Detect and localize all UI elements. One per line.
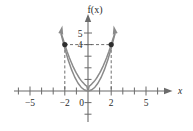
y-tick-label-5: 5 xyxy=(78,29,83,39)
curve-right-arrowhead-icon xyxy=(113,26,118,35)
x-tick-label-zero: 0 xyxy=(79,98,84,108)
y-tick-label-4: 4 xyxy=(78,40,83,50)
parabola-graph-svg: f(x) x −5 −2 0 2 5 4 5 xyxy=(0,0,193,131)
x-tick-label-minus2: −2 xyxy=(60,98,70,108)
x-tick-label-5: 5 xyxy=(144,98,149,108)
graph-figure: f(x) x −5 −2 0 2 5 4 5 xyxy=(0,0,193,131)
curve-left-arrowhead-icon xyxy=(58,26,63,35)
x-axis-arrowhead-icon xyxy=(164,88,173,94)
point-minus2-4 xyxy=(62,42,67,47)
y-axis-arrowhead-icon xyxy=(85,14,91,22)
function-label: f(x) xyxy=(88,4,103,16)
x-tick-label-2: 2 xyxy=(109,98,114,108)
labels-group: f(x) x −5 −2 0 2 5 4 5 xyxy=(25,4,183,108)
x-axis-group xyxy=(14,87,173,96)
x-axis-label: x xyxy=(177,86,183,96)
y-axis-group xyxy=(84,14,92,122)
point-2-4 xyxy=(109,42,114,47)
x-tick-label-minus5: −5 xyxy=(25,98,35,108)
